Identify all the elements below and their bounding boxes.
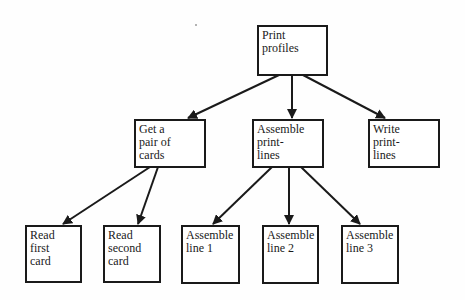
node-print-profiles: Print profiles (257, 25, 328, 76)
node-read-second-card: Read second card (103, 225, 161, 283)
edge-getpair-to-readfirst (63, 167, 150, 224)
node-get-pair-of-cards: Get a pair of cards (134, 119, 206, 168)
edge-print-to-getpair (188, 75, 279, 118)
edge-print-to-write (303, 75, 385, 118)
node-assemble-line-1: Assemble line 1 (181, 225, 240, 284)
node-assemble-line-2: Assemble line 2 (262, 225, 319, 284)
hierarchy-diagram: Print profiles Get a pair of cards Assem… (0, 0, 465, 300)
edge-getpair-to-readsecond (138, 167, 158, 224)
node-assemble-line-3: Assemble line 3 (341, 225, 399, 284)
node-write-print-lines: Write print- lines (368, 119, 440, 168)
node-read-first-card: Read first card (25, 225, 82, 283)
edge-assemble-to-line3 (301, 167, 360, 224)
edge-assemble-to-line1 (213, 167, 272, 224)
node-assemble-print-lines: Assemble print- lines (252, 119, 324, 168)
